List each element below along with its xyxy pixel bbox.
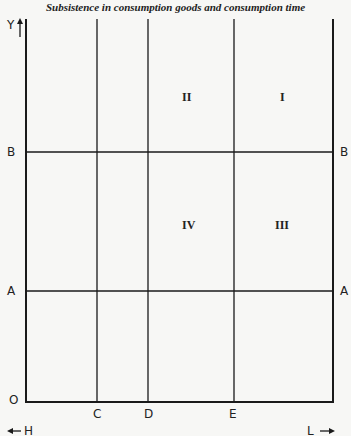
label-D: D: [144, 408, 153, 420]
origin-label: O: [9, 394, 18, 406]
diagram-grid: [0, 0, 351, 436]
region-III: III: [275, 219, 289, 231]
label-H: H: [24, 425, 33, 436]
region-I: I: [280, 91, 285, 103]
label-B-right: B: [340, 146, 348, 158]
label-A-right: A: [340, 285, 348, 297]
y-axis-label: Y: [7, 19, 14, 31]
label-C: C: [93, 408, 101, 420]
region-II: II: [182, 91, 191, 103]
region-IV: IV: [182, 219, 195, 231]
label-L: L: [307, 425, 314, 436]
label-A-left: A: [7, 285, 15, 297]
label-E: E: [229, 408, 237, 420]
label-B-left: B: [7, 146, 15, 158]
